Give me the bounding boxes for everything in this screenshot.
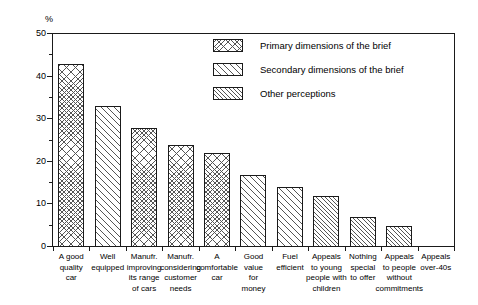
- x-divider-tick: [418, 247, 419, 251]
- bar: [204, 153, 230, 247]
- legend-swatch-primary: [213, 39, 243, 52]
- bar: [350, 217, 376, 247]
- x-category-label-line: without: [371, 273, 428, 284]
- bar: [58, 64, 84, 247]
- y-tick-label: 20: [24, 156, 46, 165]
- x-divider-tick: [126, 247, 127, 251]
- y-tick-major: [47, 76, 52, 77]
- bar: [313, 196, 339, 247]
- x-category-label-line: over-40s: [407, 263, 464, 274]
- x-divider-tick: [381, 247, 382, 251]
- bar-chart-figure: % 01020304050 A goodqualitycarWellequipp…: [0, 0, 478, 305]
- bar: [168, 145, 194, 247]
- x-divider-tick: [53, 247, 54, 251]
- legend-item-secondary[interactable]: Secondary dimensions of the brief: [213, 62, 404, 76]
- bar-slot: [162, 34, 198, 247]
- y-tick-label: 30: [24, 114, 46, 123]
- bar-slot: [126, 34, 162, 247]
- y-tick-minor: [49, 182, 52, 183]
- y-tick-major: [47, 203, 52, 204]
- bar-slot: [89, 34, 125, 247]
- y-tick-label: 50: [24, 29, 46, 38]
- y-tick-major: [47, 33, 52, 34]
- x-divider-tick: [454, 247, 455, 251]
- bar: [240, 175, 266, 247]
- legend-swatch-secondary: [213, 63, 243, 76]
- bar-slot: [53, 34, 89, 247]
- y-tick-label: 10: [24, 199, 46, 208]
- x-category-label-line: Appeals: [407, 252, 464, 263]
- x-axis-tick-labels: A goodqualitycarWellequippedManufr.impro…: [53, 252, 454, 304]
- y-tick-minor: [49, 225, 52, 226]
- x-category-label-line: car: [43, 273, 100, 284]
- y-tick-major: [47, 118, 52, 119]
- y-tick-minor: [49, 54, 52, 55]
- y-axis-unit-label: %: [45, 14, 53, 24]
- x-divider-tick: [199, 247, 200, 251]
- legend-label: Secondary dimensions of the brief: [260, 64, 404, 75]
- bar: [386, 226, 412, 247]
- legend-label: Primary dimensions of the brief: [260, 40, 391, 51]
- y-tick-label: 40: [24, 71, 46, 80]
- y-tick-minor: [49, 140, 52, 141]
- x-axis-dividers: [53, 247, 454, 251]
- chart-legend: Primary dimensions of the briefSecondary…: [213, 38, 449, 104]
- legend-label: Other perceptions: [260, 88, 336, 99]
- y-tick-major: [47, 246, 52, 247]
- x-divider-tick: [162, 247, 163, 251]
- bar: [95, 106, 121, 247]
- bar: [277, 187, 303, 247]
- x-category-label-line: children: [298, 284, 355, 295]
- x-divider-tick: [89, 247, 90, 251]
- legend-item-primary[interactable]: Primary dimensions of the brief: [213, 38, 391, 52]
- x-divider-tick: [308, 247, 309, 251]
- x-divider-tick: [235, 247, 236, 251]
- x-divider-tick: [272, 247, 273, 251]
- legend-item-other[interactable]: Other perceptions: [213, 86, 336, 100]
- y-tick-major: [47, 161, 52, 162]
- y-tick-minor: [49, 97, 52, 98]
- x-category-label: Appealsover-40s: [407, 252, 464, 273]
- y-tick-label: 0: [24, 242, 46, 251]
- x-category-label-line: for: [225, 273, 282, 284]
- x-category-label-line: commitments: [371, 284, 428, 295]
- y-axis-tick-labels: 01020304050: [20, 33, 46, 247]
- x-category-label-line: money: [225, 284, 282, 295]
- bar: [131, 128, 157, 247]
- legend-swatch-other: [213, 87, 243, 100]
- x-category-label-line: needs: [152, 284, 209, 295]
- x-divider-tick: [345, 247, 346, 251]
